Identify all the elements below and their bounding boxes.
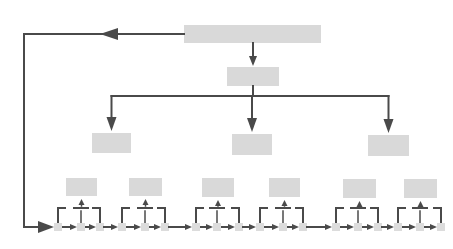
node-6-2 [416,223,424,231]
arrow-right-icon [206,224,213,230]
arrow-right-icon [367,224,374,230]
arrow-down-icon [384,119,394,133]
node-6-3 [437,223,445,231]
node-2-2 [141,223,149,231]
group-box-5 [343,179,376,198]
arrow-right-icon [325,224,332,230]
node-4-3 [299,223,307,231]
level2-box-2 [232,134,272,155]
node-2-3 [161,223,169,231]
node-4-2 [279,223,287,231]
node-5-2 [354,223,362,231]
group-box-4 [269,178,300,197]
arrow-right-icon [38,221,54,233]
node-5-1 [332,223,340,231]
arrow-down-icon [107,117,117,131]
arrow-right-icon [185,224,192,230]
level2-box-1 [92,133,131,153]
group-box-3 [202,178,234,197]
node-6-1 [394,223,402,231]
arrow-right-icon [154,224,161,230]
hierarchy-diagram [0,0,453,249]
node-1-2 [77,223,85,231]
arrow-right-icon [387,224,394,230]
node-3-3 [235,223,243,231]
level2-box-3 [368,135,409,156]
diagram-canvas [0,0,453,249]
arrow-right-icon [228,224,235,230]
node-2-1 [118,223,126,231]
group-box-1 [66,178,97,196]
group-box-2 [129,178,162,196]
arrow-right-icon [347,224,354,230]
node-1-1 [54,223,62,231]
group-box-6 [404,179,437,198]
arrow-right-icon [89,224,96,230]
node-4-1 [256,223,264,231]
node-1-3 [96,223,104,231]
arrow-right-icon [134,224,141,230]
arrow-left-icon [100,28,118,40]
arrow-right-icon [70,224,77,230]
arrow-right-icon [292,224,299,230]
arrow-right-icon [430,224,437,230]
node-3-1 [192,223,200,231]
arrow-down-icon [247,118,257,132]
node-3-2 [213,223,221,231]
arrow-down-icon [249,56,257,66]
node-5-3 [374,223,382,231]
level1-box [227,67,279,86]
arrow-right-icon [409,224,416,230]
arrow-right-icon [111,224,118,230]
arrow-right-icon [272,224,279,230]
arrow-right-icon [249,224,256,230]
root-box [184,25,321,43]
